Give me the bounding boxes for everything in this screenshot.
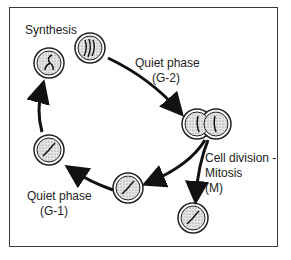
label-g1-line2: (G-1) [40,204,68,218]
cell-dividing [182,109,231,139]
label-mitosis-line3: (M) [205,181,223,195]
label-g2-line1: Quiet phase [135,56,200,70]
label-mitosis-line1: Cell division - [205,151,276,165]
label-g1-line1: Quiet phase [27,189,92,203]
arrow-g1-to-synthesis [39,88,42,132]
cell-replicated [75,33,105,63]
label-mitosis-line2: Mitosis [205,166,242,180]
arrow-mitosis-to-left [150,140,205,182]
cell-cycle-diagram [0,0,291,260]
cell-g1 [34,135,64,165]
arrow-left-to-g1 [72,170,113,190]
label-synthesis: Synthesis [25,23,77,37]
cell-synthesis [34,48,64,78]
cell-daughter-left [113,173,143,203]
cell-daughter-bottom [178,203,208,233]
label-g2-line2: (G-2) [152,71,180,85]
